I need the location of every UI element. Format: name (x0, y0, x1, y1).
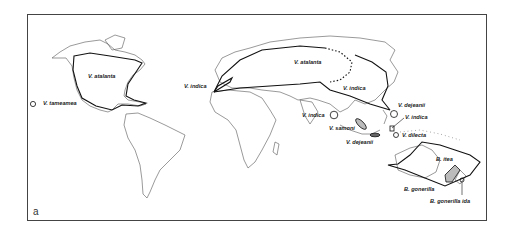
label-v-samoni: V. samoni (329, 126, 355, 132)
label-b-itea: B. itea (436, 157, 453, 163)
label-b-gonerilla: B. gonerilla (404, 187, 434, 193)
range-v-dejeanii-north (391, 111, 398, 118)
coastlines (52, 35, 466, 198)
philippines-outline (383, 110, 387, 124)
label-v-tameamea: V. tameamea (43, 101, 77, 107)
range-v-atalanta-eurasia (214, 46, 325, 92)
range-b-gonerilla (445, 165, 460, 182)
range-v-dejeanii-south (370, 133, 380, 137)
range-australasia (388, 142, 480, 186)
leader-line-v-indica-philippines (392, 118, 404, 128)
panel-letter: a (33, 206, 39, 217)
eurasia-outline (215, 36, 398, 112)
range-east-asia (355, 55, 390, 110)
africa-outline (210, 90, 276, 168)
label-v-dejeanii-south: V. dejeanii (346, 140, 373, 146)
south-america-outline (124, 113, 185, 198)
range-dotted-east (325, 48, 352, 82)
label-v-indica-india: V. indica (302, 113, 325, 119)
label-v-atalanta-eurasia: V. atalanta (294, 60, 321, 66)
label-v-atalanta-americas: V. atalanta (88, 74, 115, 80)
local-ranges (30, 101, 464, 195)
label-v-indica-west: V. indica (184, 84, 207, 90)
madagascar-outline (273, 142, 279, 155)
label-b-gonerilla-ida: B. gonerilla ida (430, 199, 470, 205)
label-v-indica-east-asia: V. indica (343, 86, 366, 92)
label-v-indica-philippines: V. indica (405, 115, 428, 121)
label-v-dilecta: V. dilecta (402, 133, 426, 139)
range-v-samoni (354, 117, 368, 131)
label-v-dejeanii-north: V. dejeanii (398, 103, 425, 109)
greenland-outline (105, 35, 125, 50)
range-v-tameamea (30, 101, 35, 106)
range-v-indica-india (330, 111, 338, 119)
range-v-dilecta (394, 133, 399, 138)
